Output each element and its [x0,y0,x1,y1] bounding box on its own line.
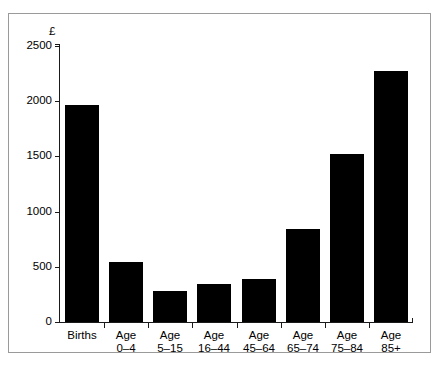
y-axis-tick-label: 500 [4,261,52,273]
category-label-line: 85+ [369,342,413,355]
category-label-line: Age [369,329,413,342]
x-axis-category-labels: BirthsAge0–4Age5–15Age16–44Age45–64Age65… [60,329,413,359]
x-axis-line [59,322,413,323]
bar [197,284,231,322]
category-label-line: Age [237,329,281,342]
category-label-line: Age [104,329,148,342]
bar [109,262,143,322]
x-axis-category-label: Births [60,329,104,342]
x-axis-tick [369,323,370,328]
category-label-line: 65–74 [281,342,325,355]
bar-chart-figure: £ 05001000150020002500 BirthsAge0–4Age5–… [0,0,440,367]
category-label-line: Age [192,329,236,342]
x-axis-tick [237,323,238,328]
x-axis-category-label: Age75–84 [325,329,369,355]
x-axis-category-label: Age85+ [369,329,413,355]
bar [65,105,99,322]
y-axis-tick-label: 1000 [4,206,52,218]
category-label-line: Age [148,329,192,342]
bar [242,279,276,322]
x-axis-tick [192,323,193,328]
x-axis-tick [148,323,149,328]
y-axis-tick-label: 0 [4,316,52,328]
x-axis-category-label: Age16–44 [192,329,236,355]
y-axis-tick [55,322,60,323]
x-axis-tick [281,323,282,328]
y-axis-tick-label: 2000 [4,95,52,107]
bar-series [60,46,413,322]
category-label-line: Age [325,329,369,342]
x-axis-tick [325,323,326,328]
bar [330,154,364,322]
y-axis-tick-label: 1500 [4,150,52,162]
category-label-line: 75–84 [325,342,369,355]
category-label-line: 0–4 [104,342,148,355]
category-label-line: Births [60,329,104,342]
category-label-line: 16–44 [192,342,236,355]
x-axis-tick [104,323,105,328]
x-axis-category-label: Age0–4 [104,329,148,355]
bar [374,71,408,322]
x-axis-category-label: Age65–74 [281,329,325,355]
bar [153,291,187,322]
bar [286,229,320,322]
x-axis-category-label: Age5–15 [148,329,192,355]
category-label-line: 5–15 [148,342,192,355]
y-axis-top-cap [55,44,60,45]
x-axis-category-label: Age45–64 [237,329,281,355]
y-axis-tick-label: 2500 [4,40,52,52]
category-label-line: Age [281,329,325,342]
y-axis-unit-label: £ [49,26,55,38]
category-label-line: 45–64 [237,342,281,355]
